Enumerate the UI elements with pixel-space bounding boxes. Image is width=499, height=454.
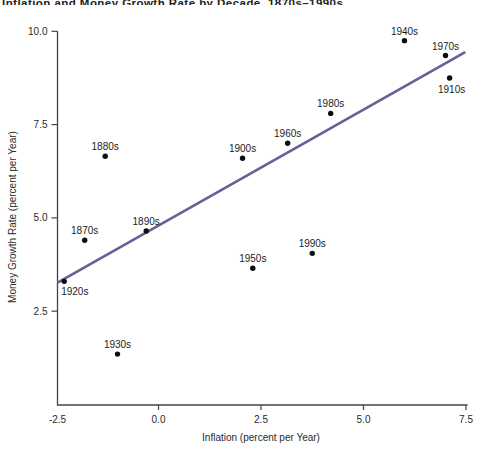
trend-line-layer [58, 53, 464, 283]
data-point-label-1920s: 1920s [61, 286, 88, 297]
data-point-label-1930s: 1930s [104, 339, 131, 350]
data-point-label-1940s: 1940s [391, 26, 418, 37]
y-tick-label: 7.5 [34, 119, 48, 130]
x-tick-label: -2.5 [49, 414, 67, 425]
data-point-1920s [61, 279, 66, 284]
data-point-1980s [328, 111, 333, 116]
x-axis-title: Inflation (percent per Year) [202, 432, 320, 443]
scatter-plot: 2.55.07.510.0-2.50.02.55.07.5 1870s1880s… [0, 0, 499, 454]
points-layer: 1870s1880s1890s1900s1910s1920s1930s1940s… [61, 26, 465, 357]
data-point-1890s [144, 228, 149, 233]
trend-line [58, 53, 464, 283]
x-tick-label: 2.5 [254, 414, 268, 425]
data-point-1870s [82, 238, 87, 243]
y-tick-label: 5.0 [34, 212, 48, 223]
y-tick-label: 10.0 [28, 26, 48, 37]
data-point-label-1890s: 1890s [133, 216, 160, 227]
data-point-label-1880s: 1880s [92, 141, 119, 152]
data-point-1940s [402, 38, 407, 43]
data-point-1900s [240, 155, 245, 160]
figure-money-growth-vs-inflation: Inflation and Money Growth Rate by Decad… [0, 0, 499, 454]
data-point-label-1910s: 1910s [438, 84, 465, 95]
data-point-1880s [103, 154, 108, 159]
data-point-label-1990s: 1990s [299, 238, 326, 249]
x-tick-label: 5.0 [357, 414, 371, 425]
x-tick-label: 0.0 [152, 414, 166, 425]
y-tick-label: 2.5 [34, 306, 48, 317]
data-point-1950s [250, 266, 255, 271]
x-tick-label: 7.5 [459, 414, 473, 425]
data-point-1930s [115, 351, 120, 356]
data-point-label-1870s: 1870s [71, 225, 98, 236]
data-point-label-1970s: 1970s [432, 41, 459, 52]
data-point-1910s [447, 75, 452, 80]
data-point-1970s [443, 53, 448, 58]
y-axis-title: Money Growth Rate (percent per Year) [7, 131, 18, 303]
data-point-label-1960s: 1960s [274, 128, 301, 139]
data-point-label-1980s: 1980s [317, 98, 344, 109]
data-point-1990s [310, 251, 315, 256]
data-point-label-1900s: 1900s [229, 143, 256, 154]
data-point-1960s [285, 141, 290, 146]
data-point-label-1950s: 1950s [239, 253, 266, 264]
